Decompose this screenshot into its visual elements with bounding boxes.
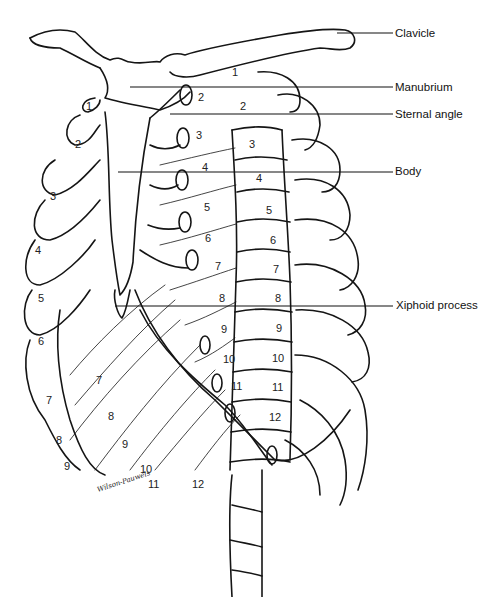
svg-text:3: 3 — [50, 190, 56, 202]
svg-text:8: 8 — [108, 410, 114, 422]
label-xiphoid-process: Xiphoid process — [396, 299, 478, 312]
svg-text:5: 5 — [204, 201, 210, 213]
svg-text:4: 4 — [202, 161, 208, 173]
svg-text:8: 8 — [56, 434, 62, 446]
svg-text:8: 8 — [219, 292, 225, 304]
svg-text:6: 6 — [270, 234, 276, 246]
anterior-rib-numbers: 2 3 4 5 6 7 8 9 10 11 — [196, 91, 242, 392]
label-body: Body — [395, 165, 421, 178]
svg-text:7: 7 — [96, 374, 102, 386]
label-clavicle: Clavicle — [395, 27, 435, 40]
svg-text:1: 1 — [86, 100, 92, 112]
svg-text:5: 5 — [266, 204, 272, 216]
svg-text:12: 12 — [192, 478, 204, 490]
svg-text:3: 3 — [249, 138, 255, 150]
svg-text:6: 6 — [38, 335, 44, 347]
svg-text:9: 9 — [276, 322, 282, 334]
svg-text:1: 1 — [232, 66, 238, 78]
costal-margin — [135, 290, 350, 461]
svg-text:9: 9 — [64, 460, 70, 472]
xiphoid-shape — [115, 290, 130, 318]
svg-text:4: 4 — [35, 244, 41, 256]
svg-text:4: 4 — [256, 172, 262, 184]
svg-text:6: 6 — [205, 232, 211, 244]
svg-text:2: 2 — [75, 138, 81, 150]
svg-text:7: 7 — [273, 263, 279, 275]
svg-text:5: 5 — [38, 292, 44, 304]
sternum-body — [105, 112, 150, 295]
artist-signature: Wilson-Pauwels — [96, 469, 151, 494]
label-sternal-angle: Sternal angle — [395, 108, 463, 121]
svg-text:10: 10 — [223, 353, 235, 365]
svg-text:11: 11 — [231, 380, 242, 392]
label-manubrium: Manubrium — [395, 81, 453, 94]
clavicle-left — [30, 29, 355, 77]
svg-text:2: 2 — [198, 91, 204, 103]
svg-text:9: 9 — [122, 438, 128, 450]
svg-text:11: 11 — [272, 381, 283, 393]
svg-text:8: 8 — [275, 292, 281, 304]
svg-text:10: 10 — [272, 352, 284, 364]
svg-text:12: 12 — [269, 411, 281, 423]
svg-text:11: 11 — [148, 478, 159, 490]
svg-text:9: 9 — [221, 323, 227, 335]
svg-text:3: 3 — [196, 129, 202, 141]
svg-text:7: 7 — [215, 260, 221, 272]
manubrium-shape — [100, 68, 190, 110]
svg-text:2: 2 — [240, 100, 246, 112]
leader-lines — [115, 33, 393, 306]
svg-text:7: 7 — [46, 394, 52, 406]
